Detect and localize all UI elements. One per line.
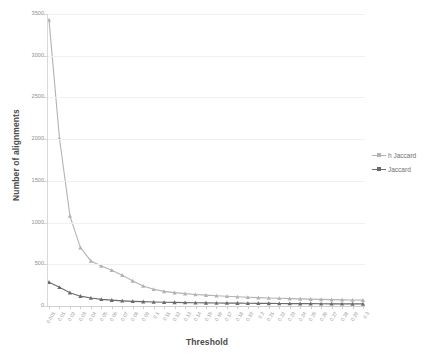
x-tick-mark [342, 306, 343, 309]
y-axis-title: Number of alignments [11, 95, 21, 215]
x-tick-mark [49, 306, 50, 309]
legend-marker-icon [372, 166, 386, 173]
x-tick-mark [59, 306, 60, 309]
x-tick-label: 0.16 [214, 311, 223, 322]
x-tick-mark [196, 306, 197, 309]
y-tick-label: 3000 [32, 53, 44, 59]
x-tick-mark [321, 306, 322, 309]
x-tick-label: 0.21 [266, 311, 275, 322]
gridline [47, 264, 365, 265]
chart-container: Number of alignments Threshold 050010001… [0, 0, 446, 355]
legend-item-2[interactable]: Jaccard [372, 162, 446, 176]
y-tick-label: 1500 [32, 178, 44, 184]
legend-item-1[interactable]: h Jaccard [372, 148, 446, 162]
x-tick-label: 0.09 [141, 311, 150, 322]
gridline [47, 181, 365, 182]
x-tick-label: 0.22 [277, 311, 286, 322]
series-layer [47, 14, 365, 306]
x-tick-mark [154, 306, 155, 309]
gridline [47, 14, 365, 15]
x-tick-label: 0.27 [329, 311, 338, 322]
x-tick-mark [279, 306, 280, 309]
x-tick-label: 0.12 [172, 311, 181, 322]
x-tick-label: 0.02 [68, 311, 77, 322]
x-tick-label: 0.28 [340, 311, 349, 322]
x-tick-mark [133, 306, 134, 309]
x-tick-mark [80, 306, 81, 309]
data-point-marker [68, 214, 72, 218]
x-tick-label: 0.17 [225, 311, 234, 322]
x-tick-mark [227, 306, 228, 309]
x-tick-label: 0.25 [308, 311, 317, 322]
x-tick-mark [248, 306, 249, 309]
x-tick-mark [175, 306, 176, 309]
gridline [47, 97, 365, 98]
gridline [47, 139, 365, 140]
chart-legend: h JaccardJaccard [372, 148, 446, 176]
x-tick-label: 0.23 [287, 311, 296, 322]
x-tick-label: 0.06 [109, 311, 118, 322]
y-tick-label: 2500 [32, 95, 44, 101]
legend-label: h Jaccard [388, 152, 416, 159]
x-axis-title: Threshold [47, 337, 367, 347]
x-tick-label: 0.14 [193, 311, 202, 322]
x-tick-label: 0.01 [57, 311, 66, 322]
x-tick-label: 0.13 [183, 311, 192, 322]
x-tick-mark [311, 306, 312, 309]
x-tick-label: 0.29 [350, 311, 359, 322]
x-tick-mark [164, 306, 165, 309]
y-tick-label: 2000 [32, 136, 44, 142]
data-point-marker [131, 279, 135, 283]
x-tick-mark [206, 306, 207, 309]
x-tick-mark [143, 306, 144, 309]
x-tick-mark [258, 306, 259, 309]
x-tick-mark [216, 306, 217, 309]
x-tick-label: 0.24 [298, 311, 307, 322]
y-axis-line [47, 14, 48, 306]
x-tick-mark [269, 306, 270, 309]
x-tick-label: 0.03 [78, 311, 87, 322]
x-tick-mark [363, 306, 364, 309]
series-line [49, 20, 363, 300]
x-tick-label: 0.05 [99, 311, 108, 322]
x-tick-label: 0.08 [130, 311, 139, 322]
x-tick-mark [290, 306, 291, 309]
plot-area: 0500100015002000250030003500 0.0010.010.… [47, 14, 365, 306]
x-tick-label: 0.18 [235, 311, 244, 322]
x-tick-label: 0.07 [120, 311, 129, 322]
x-tick-mark [353, 306, 354, 309]
x-tick-mark [70, 306, 71, 309]
legend-label: Jaccard [388, 166, 411, 173]
x-tick-label: 0.2 [257, 311, 265, 320]
y-tick-label: 3500 [32, 11, 44, 17]
x-tick-label: 0.3 [362, 311, 370, 320]
x-tick-mark [101, 306, 102, 309]
x-tick-label: 0.26 [319, 311, 328, 322]
x-tick-label: 0.19 [245, 311, 254, 322]
series-2 [47, 280, 365, 306]
x-tick-label: 0.001 [45, 311, 56, 324]
x-tick-mark [91, 306, 92, 309]
x-tick-mark [185, 306, 186, 309]
series-1 [47, 18, 365, 302]
x-tick-label: 0.11 [162, 311, 171, 322]
x-tick-mark [112, 306, 113, 309]
data-point-marker [78, 246, 82, 250]
x-tick-label: 0.04 [88, 311, 97, 322]
x-tick-mark [332, 306, 333, 309]
y-tick-label: 0 [41, 303, 44, 309]
y-tick-label: 1000 [32, 220, 44, 226]
x-tick-mark [122, 306, 123, 309]
y-tick-label: 500 [35, 261, 44, 267]
x-tick-mark [237, 306, 238, 309]
gridline [47, 56, 365, 57]
x-tick-mark [300, 306, 301, 309]
x-tick-label: 0.15 [204, 311, 213, 322]
legend-marker-icon [372, 152, 386, 159]
gridline [47, 223, 365, 224]
x-tick-label: 0.1 [153, 311, 161, 320]
